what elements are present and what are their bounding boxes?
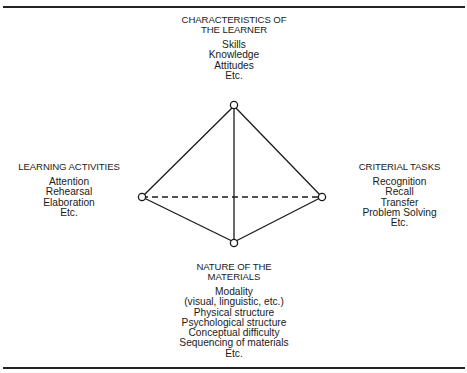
learning-activities-list: Attention Rehearsal Elaboration Etc. bbox=[0, 177, 138, 218]
heading-line: THE LEARNER bbox=[134, 25, 334, 35]
nature-of-materials-heading: NATURE OF THE MATERIALS bbox=[134, 262, 334, 282]
heading-line: MATERIALS bbox=[134, 272, 334, 282]
nature-of-materials-block: NATURE OF THE MATERIALS Modality (visual… bbox=[134, 262, 334, 359]
learning-activities-block: LEARNING ACTIVITIES Attention Rehearsal … bbox=[0, 162, 138, 218]
heading-line: CRITERIAL TASKS bbox=[332, 162, 467, 172]
nature-of-materials-list: Modality (visual, linguistic, etc.) Phys… bbox=[134, 287, 334, 359]
criterial-tasks-heading: CRITERIAL TASKS bbox=[332, 162, 467, 172]
learner-characteristics-list: Skills Knowledge Attitudes Etc. bbox=[134, 40, 334, 81]
bottom-rule bbox=[3, 367, 465, 369]
list-item: Etc. bbox=[0, 208, 138, 218]
list-item: Etc. bbox=[134, 71, 334, 81]
heading-line: LEARNING ACTIVITIES bbox=[0, 162, 138, 172]
node-top-circle-icon bbox=[230, 101, 237, 108]
node-left-circle-icon bbox=[138, 193, 145, 200]
edge-right-bottom bbox=[234, 197, 322, 242]
learner-characteristics-block: CHARACTERISTICS OF THE LEARNER Skills Kn… bbox=[134, 15, 334, 81]
node-bottom-circle-icon bbox=[230, 239, 237, 246]
criterial-tasks-block: CRITERIAL TASKS Recognition Recall Trans… bbox=[332, 162, 467, 228]
edge-top-left bbox=[142, 106, 234, 197]
edge-left-bottom bbox=[142, 197, 234, 242]
edge-top-right bbox=[234, 106, 322, 197]
node-right-circle-icon bbox=[318, 193, 325, 200]
learner-characteristics-heading: CHARACTERISTICS OF THE LEARNER bbox=[134, 15, 334, 35]
criterial-tasks-list: Recognition Recall Transfer Problem Solv… bbox=[332, 177, 467, 228]
list-item: Etc. bbox=[134, 349, 334, 359]
learning-activities-heading: LEARNING ACTIVITIES bbox=[0, 162, 138, 172]
list-item: Etc. bbox=[332, 218, 467, 228]
